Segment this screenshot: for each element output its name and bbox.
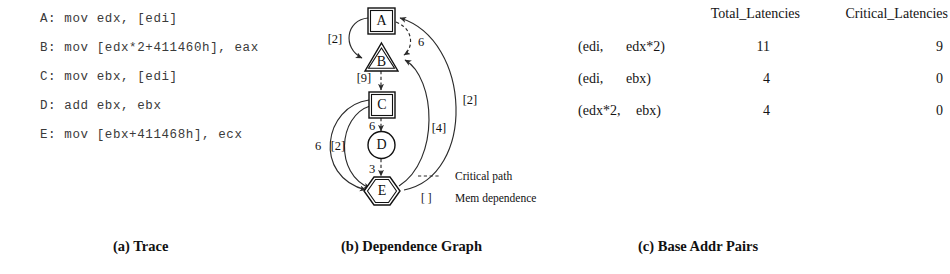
column-header-total-latencies: Total_Latencies [660, 6, 800, 22]
graph-node-e[interactable]: E [364, 177, 400, 205]
trace-line-b: B: mov [edx*2+411460h], eax [40, 41, 259, 55]
graph-node-d[interactable]: D [368, 132, 395, 159]
graph-node-c-label: C [377, 97, 386, 112]
edge-label-a-b-mem: [2] [328, 32, 343, 46]
cell-critical-2: 0 [865, 103, 943, 119]
graph-node-b[interactable]: B [365, 43, 398, 71]
dependence-graph-panel: A B C D E [2] 6 [9] 6 3 6 [300, 0, 600, 230]
graph-node-d-label: D [376, 137, 386, 152]
row-pair-right-0: edx*2) [626, 39, 665, 55]
edge-a-b-critical [396, 22, 411, 55]
trace-line-e: E: mov [ebx+411468h], ecx [40, 128, 243, 142]
row-pair-left-0: (edi, [578, 39, 603, 55]
edge-c-e-mem [344, 106, 370, 188]
cell-total-1: 4 [700, 71, 770, 87]
trace-line-c: C: mov ebx, [edi] [40, 70, 178, 84]
row-pair-left-2: (edx*2, [578, 103, 620, 119]
edge-label-e-b-mem-4: [4] [432, 121, 447, 135]
edge-label-c-d: 6 [369, 119, 375, 133]
dependence-graph-svg: A B C D E [2] 6 [9] 6 3 6 [300, 0, 600, 230]
edge-label-c-e-reg: 6 [315, 139, 321, 153]
cell-total-0: 11 [700, 39, 770, 55]
cell-critical-0: 9 [865, 39, 943, 55]
caption-base-addr-pairs: (c) Base Addr Pairs [638, 238, 758, 255]
row-pair-right-1: ebx) [626, 71, 651, 87]
column-header-critical-latencies: Critical_Latencies [808, 6, 948, 22]
row-pair-left-1: (edi, [578, 71, 603, 87]
trace-line-a: A: mov edx, [edi] [40, 12, 178, 26]
trace-line-d: D: add ebx, ebx [40, 99, 162, 113]
edge-label-a-b-critical: 6 [418, 35, 424, 49]
legend-critical-path-label: Critical path [455, 170, 512, 183]
graph-node-a-label: A [376, 13, 387, 28]
edge-label-b-c: [9] [357, 71, 372, 85]
graph-node-c[interactable]: C [369, 92, 395, 118]
legend-mem-dependence-label: Mem dependence [455, 192, 536, 205]
graph-legend: Critical path [ ] Mem dependence [418, 170, 536, 205]
trace-panel: A: mov edx, [edi] B: mov [edx*2+411460h]… [0, 0, 310, 230]
cell-critical-1: 0 [865, 71, 943, 87]
edge-a-b-mem [349, 18, 368, 58]
edge-label-d-e: 3 [369, 162, 375, 176]
base-addr-pairs-table: Total_Latencies Critical_Latencies (edi,… [560, 0, 950, 230]
caption-dependence-graph: (b) Dependence Graph [341, 238, 482, 255]
cell-total-2: 4 [700, 103, 770, 119]
caption-trace: (a) Trace [113, 238, 168, 255]
graph-node-e-label: E [378, 183, 387, 198]
graph-node-b-label: B [377, 54, 386, 69]
edge-label-e-b-mem-2: [2] [463, 93, 478, 107]
graph-node-a[interactable]: A [368, 8, 395, 34]
edge-label-c-e-mem: [2] [331, 139, 346, 153]
edge-e-b-mem-4 [399, 60, 429, 186]
row-pair-right-2: ebx) [636, 103, 661, 119]
legend-bracket-icon: [ ] [421, 192, 432, 204]
